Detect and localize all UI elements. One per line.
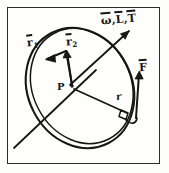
figure-root: ω,L,T r1 r2 P F r: [0, 0, 169, 173]
vector-r1-label: r1: [26, 36, 39, 49]
point-P-marker: [70, 84, 73, 87]
r1-base-symbol: r: [26, 37, 33, 49]
disk-rim-inner: [11, 11, 152, 162]
force-vector-arrow: [135, 71, 143, 118]
radius-label: r: [115, 92, 122, 103]
angular-momentum-symbol: L: [115, 14, 124, 26]
r2-base-symbol: r: [66, 36, 73, 47]
r1-subscript: 1: [33, 40, 39, 49]
vector-r2-label: r2: [66, 36, 78, 49]
axis-vector-arrow: [70, 31, 129, 85]
omega-symbol: ω: [101, 15, 113, 27]
torque-symbol: T: [127, 12, 136, 24]
force-symbol: F: [139, 62, 148, 73]
force-vector-label: F: [139, 62, 148, 73]
r2-subscript: 2: [72, 39, 78, 48]
disk-shape: [6, 9, 155, 167]
point-P-label: P: [57, 82, 65, 92]
right-angle-square: [119, 110, 128, 120]
diagram-canvas: [0, 0, 169, 173]
r2-vector-arrow: [63, 50, 72, 85]
axis-vectors-label: ω,L,T: [101, 12, 137, 26]
